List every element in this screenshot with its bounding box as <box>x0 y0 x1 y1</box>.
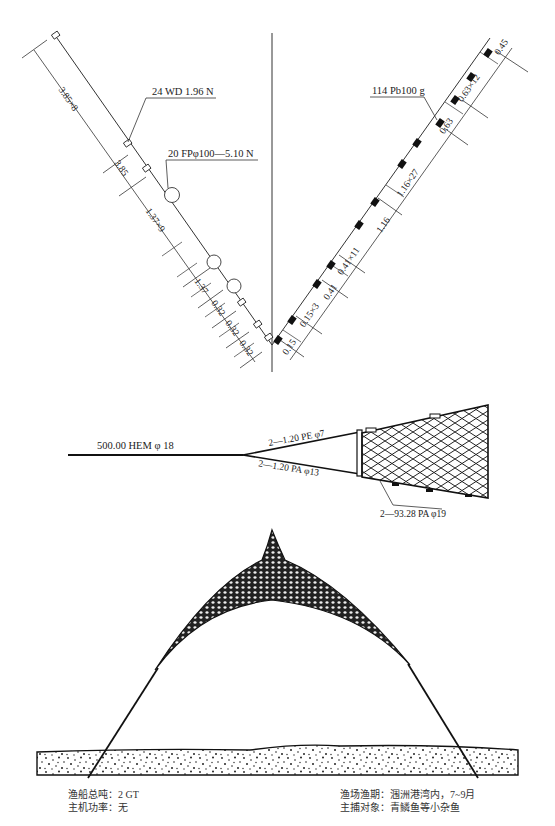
fishery-info: 渔场渔期：涠洲港湾内，7~9月 主捕对象：青鳞鱼等小杂鱼 <box>340 788 475 814</box>
vessel-info: 渔船总吨：2 GT 主机功率：无 <box>68 788 139 814</box>
seabed <box>37 745 518 775</box>
net-deployment-illustration <box>0 0 555 826</box>
fishing-ground-season: 渔场渔期：涠洲港湾内，7~9月 <box>340 788 475 801</box>
target-species: 主捕对象：青鳞鱼等小杂鱼 <box>340 801 475 814</box>
engine-power: 主机功率：无 <box>68 801 139 814</box>
net-arch <box>155 530 410 670</box>
gross-tonnage: 渔船总吨：2 GT <box>68 788 139 801</box>
